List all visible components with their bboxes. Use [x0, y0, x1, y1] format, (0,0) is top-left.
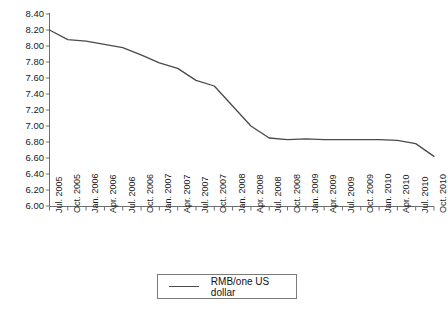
x-axis-tick-label: Oct. 2007 [218, 174, 228, 213]
legend: RMB/one US dollar [157, 274, 297, 299]
x-axis-tick-label: Jul. 2007 [200, 176, 210, 213]
y-axis-ticks [46, 14, 50, 206]
x-axis-tick-label: Oct. 2006 [145, 174, 155, 213]
x-axis-tick-label: Jan. 2006 [90, 173, 100, 213]
x-axis-tick-label: Apr. 2010 [401, 174, 411, 213]
data-series-rmb-per-usd [50, 30, 435, 156]
legend-label: RMB/one US dollar [211, 276, 296, 298]
x-axis-tick-label: Oct. 2009 [365, 174, 375, 213]
x-axis-tick-label: Apr. 2008 [255, 174, 265, 213]
x-axis-tick-label: Apr. 2007 [182, 174, 192, 213]
x-axis-tick-label: Apr. 2009 [328, 174, 338, 213]
x-axis-tick-label: Jul. 2005 [54, 176, 64, 213]
x-axis-tick-label: Jul. 2009 [346, 176, 356, 213]
legend-line-marker [169, 286, 199, 287]
x-axis-tick-label: Apr. 2006 [108, 174, 118, 213]
x-axis-tick-label: Oct. 2008 [292, 174, 302, 213]
x-axis-tick-label: Jul. 2008 [273, 176, 283, 213]
x-axis-tick-label: Jan. 2007 [163, 173, 173, 213]
x-axis-tick-label: Oct. 2010 [438, 174, 448, 213]
x-axis-tick-label: Oct. 2005 [72, 174, 82, 213]
x-axis-tick-label: Jul. 2006 [127, 176, 137, 213]
x-axis-tick-label: Jan. 2008 [237, 173, 247, 213]
x-axis-tick-label: Jan. 2010 [383, 173, 393, 213]
x-axis-tick-label: Jul. 2010 [420, 176, 430, 213]
x-axis-tick-label: Jan. 2009 [310, 173, 320, 213]
